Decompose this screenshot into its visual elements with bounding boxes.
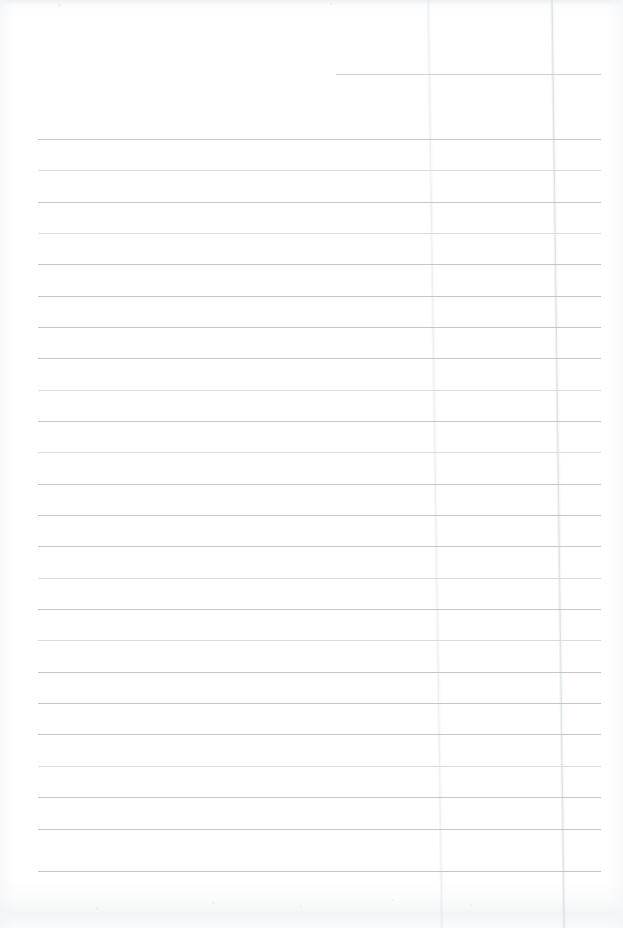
scan-speck — [470, 904, 472, 906]
scan-speck — [300, 905, 302, 907]
partial-rule-line — [336, 74, 601, 75]
scan-speck — [392, 899, 394, 901]
scan-speck — [58, 4, 61, 7]
right-edge-shadow — [607, 0, 623, 928]
scan-speck — [96, 907, 99, 910]
left-edge-shadow — [0, 0, 14, 928]
scan-speck — [212, 901, 215, 904]
scanned-page — [0, 0, 623, 928]
scan-speck — [330, 3, 332, 5]
writing-area[interactable] — [38, 139, 601, 872]
